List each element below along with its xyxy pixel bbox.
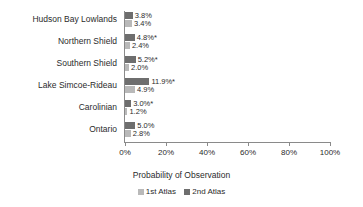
x-axis-tick xyxy=(248,142,249,146)
x-axis-tick-label: 0% xyxy=(119,148,131,158)
category-label: Carolinian xyxy=(0,102,117,112)
x-axis-tick xyxy=(330,142,331,146)
category-label: Southern Shield xyxy=(0,58,117,68)
x-axis-tick xyxy=(166,142,167,146)
legend-label: 1st Atlas xyxy=(146,186,176,197)
x-axis-tick-label: 80% xyxy=(281,148,297,158)
bar-value-1st-atlas: 1.2% xyxy=(127,108,146,115)
legend-label: 2nd Atlas xyxy=(192,186,225,197)
bar-value-1st-atlas: 2.0% xyxy=(129,64,148,71)
category-label: Hudson Bay Lowlands xyxy=(0,14,117,24)
bar-value-2nd-atlas: 3.0%* xyxy=(131,100,153,107)
bar-2nd-atlas xyxy=(125,12,133,19)
bar-value-2nd-atlas: 11.9%* xyxy=(149,78,175,85)
bar-value-1st-atlas: 2.4% xyxy=(130,42,149,49)
x-axis-tick-label: 40% xyxy=(199,148,215,158)
bar-value-2nd-atlas: 4.8%* xyxy=(135,34,157,41)
x-axis-tick xyxy=(289,142,290,146)
bar-1st-atlas xyxy=(125,20,132,27)
bar-value-1st-atlas: 2.8% xyxy=(131,130,150,137)
bar-2nd-atlas xyxy=(125,34,135,41)
bar-value-2nd-atlas: 5.2%* xyxy=(136,56,158,63)
category-axis: Hudson Bay Lowlands Northern Shield Sout… xyxy=(0,11,121,142)
bar-chart: Hudson Bay Lowlands Northern Shield Sout… xyxy=(0,0,363,207)
bar-value-1st-atlas: 3.4% xyxy=(132,20,151,27)
category-label: Northern Shield xyxy=(0,36,117,46)
x-axis-tick-label: 60% xyxy=(240,148,256,158)
legend-item-1st-atlas: 1st Atlas xyxy=(138,186,176,197)
x-axis-tick xyxy=(125,142,126,146)
x-axis-tick xyxy=(207,142,208,146)
bar-value-2nd-atlas: 5.0% xyxy=(135,122,154,129)
x-axis-title: Probability of Observation xyxy=(0,170,363,181)
bar-value-1st-atlas: 4.9% xyxy=(135,86,154,93)
x-axis-line xyxy=(124,142,330,143)
bar-1st-atlas xyxy=(125,86,135,93)
bar-2nd-atlas xyxy=(125,122,135,129)
bar-value-2nd-atlas: 3.8% xyxy=(133,12,152,19)
x-axis-tick-label: 20% xyxy=(158,148,174,158)
category-label: Lake Simcoe-Rideau xyxy=(0,80,117,90)
legend-swatch-icon xyxy=(184,189,190,195)
bar-2nd-atlas xyxy=(125,78,149,85)
legend: 1st Atlas 2nd Atlas xyxy=(0,186,363,197)
x-axis-tick-label: 100% xyxy=(320,148,340,158)
bar-2nd-atlas xyxy=(125,56,136,63)
legend-item-2nd-atlas: 2nd Atlas xyxy=(184,186,225,197)
legend-swatch-icon xyxy=(138,189,144,195)
plot-area: 3.8% 3.4% 4.8%* 2.4% 5.2%* 2.0% 11.9%* 4… xyxy=(124,11,330,142)
category-label: Ontario xyxy=(0,124,117,134)
